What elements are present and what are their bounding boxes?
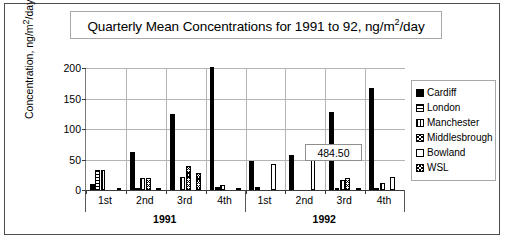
legend-item-bowland[interactable]: Bowland [416, 145, 495, 160]
x-axis-group-label: 1992 [313, 213, 336, 225]
legend-label: London [427, 103, 460, 113]
bar-manchester [220, 185, 225, 190]
bar-middlesbrough [345, 178, 350, 190]
x-axis-group-labels: 19911992 [85, 213, 404, 227]
bar-group [325, 68, 365, 190]
bar-middlesbrough [186, 166, 191, 190]
bar-group [206, 68, 246, 190]
y-axis-tick-label: 150 [63, 93, 81, 105]
bar-wsl [156, 188, 161, 190]
x-axis-group-separator [85, 190, 86, 212]
chart-figure: Quarterly Mean Concentrations for 1991 t… [0, 0, 506, 248]
legend-item-manchester[interactable]: Manchester [416, 115, 495, 130]
legend-label: WSL [427, 163, 449, 173]
legend-swatch-icon [416, 104, 424, 112]
bar-cardiff [130, 152, 135, 190]
x-axis-tick-label: 3rd [177, 194, 192, 206]
bar-manchester [101, 170, 106, 190]
legend-label: Middlesbrough [427, 133, 493, 143]
bar-cardiff [170, 114, 175, 190]
bar-manchester [180, 177, 185, 190]
bar-cardiff [90, 184, 95, 190]
legend-swatch-icon [416, 164, 424, 172]
bar-group [285, 68, 325, 190]
x-axis-tick-label: 2nd [136, 194, 154, 206]
annotation-label: 484.50 [317, 147, 349, 159]
bar-wsl [236, 188, 241, 190]
x-axis-group-separator [404, 190, 405, 212]
bar-group [166, 68, 206, 190]
legend-swatch-icon [416, 149, 424, 157]
bar-manchester [380, 183, 385, 190]
bar-manchester [340, 180, 345, 190]
y-axis-tick-label: 100 [63, 123, 81, 135]
bar-london [215, 187, 220, 190]
x-axis-tick-label: 2nd [296, 194, 314, 206]
y-axis-title-tail: /day [23, 0, 35, 19]
legend-label: Cardiff [427, 88, 456, 98]
legend-item-wsl[interactable]: WSL [416, 160, 495, 175]
x-axis-group-label: 1991 [153, 213, 176, 225]
bar-cardiff [369, 88, 374, 190]
bar-cardiff [289, 155, 294, 190]
bar-london [374, 188, 379, 190]
chart-title-box: Quarterly Mean Concentrations for 1991 t… [70, 11, 442, 39]
bar-london [95, 170, 100, 190]
chart-title-text-tail: /day [399, 18, 424, 33]
x-axis-tick-label: 1st [257, 194, 271, 206]
y-axis-tick-labels: 050100150200 [50, 68, 81, 190]
legend-swatch-icon [416, 119, 424, 127]
x-axis-tick-label: 1st [98, 194, 112, 206]
annotation-box: 484.50 [305, 144, 362, 161]
x-axis-group-separator [245, 190, 246, 212]
bar-bowland [271, 164, 276, 190]
bar-cardiff [249, 161, 254, 190]
legend-item-london[interactable]: London [416, 100, 495, 115]
bar-bowland [390, 177, 395, 190]
bar-manchester [140, 178, 145, 190]
bar-group [365, 68, 405, 190]
bar-cardiff [210, 67, 215, 190]
bar-group [86, 68, 126, 190]
legend-item-middlesbrough[interactable]: Middlesbrough [416, 130, 495, 145]
y-axis-tick-label: 0 [75, 184, 81, 196]
y-axis-tick-label: 50 [69, 154, 81, 166]
legend-label: Bowland [427, 148, 465, 158]
chart-title-text-main: Quarterly Mean Concentrations for 1991 t… [87, 18, 394, 33]
bar-middlesbrough [146, 178, 151, 190]
legend-swatch-icon [416, 134, 424, 142]
y-axis-title: Concentration, ng/m2/day [21, 0, 36, 139]
bar-group [246, 68, 286, 190]
x-axis-tick-label: 4th [377, 194, 392, 206]
legend-swatch-icon [416, 89, 424, 97]
y-axis-tick-label: 200 [63, 62, 81, 74]
legend-label: Manchester [427, 118, 479, 128]
y-axis-title-superscript: 2 [21, 19, 31, 24]
bar-wsl [356, 188, 361, 190]
chart-legend: CardiffLondonManchesterMiddlesbroughBowl… [411, 80, 496, 181]
bar-wsl [196, 173, 201, 190]
bar-group [126, 68, 166, 190]
chart-title: Quarterly Mean Concentrations for 1991 t… [87, 17, 424, 34]
bar-bowland [311, 159, 316, 190]
plot-area: 484.50 [85, 68, 405, 191]
x-axis-tick-label: 4th [217, 194, 232, 206]
bar-wsl [117, 188, 122, 190]
y-axis-title-main: Concentration, ng/m [23, 24, 35, 119]
x-axis-tick-label: 3rd [337, 194, 352, 206]
bar-london [335, 188, 340, 190]
bar-london [135, 188, 140, 190]
legend-item-cardiff[interactable]: Cardiff [416, 85, 495, 100]
bar-london [255, 187, 260, 190]
